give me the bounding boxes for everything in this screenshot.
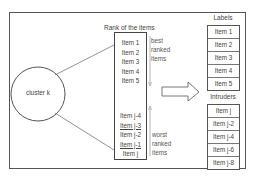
intruders-cell: Item j-4 — [208, 131, 239, 144]
note-line: ranked — [151, 45, 170, 54]
rank-title: Rank of the items — [104, 24, 155, 31]
rank-item: Item j-3 — [115, 121, 146, 130]
rank-item: Item 3 — [115, 57, 146, 66]
connector-line-top — [55, 45, 114, 75]
intruders-cell: Item j — [208, 105, 239, 118]
rank-item: Item j — [115, 149, 146, 158]
labels-table: Item 1 Item 2 Item 3 Item 4 Item 5 — [207, 25, 240, 91]
best-ranked-note: best ranked items — [151, 36, 170, 63]
worst-ranked-note: worst ranked items — [152, 130, 171, 157]
connector-line-bottom — [55, 113, 114, 150]
labels-cell: Item 5 — [208, 78, 239, 90]
note-line: worst — [152, 130, 171, 139]
note-line: items — [152, 148, 171, 157]
labels-title: Labels — [206, 14, 240, 21]
note-line: best — [151, 36, 170, 45]
rank-item: Item j-4 — [115, 111, 146, 120]
labels-cell: Item 4 — [208, 65, 239, 78]
rank-list: Item 1 Item 2 Item 3 Item 4 Item 5 Item … — [114, 32, 147, 160]
intruders-cell: Item j-6 — [208, 144, 239, 157]
intruders-cell: Item j-8 — [208, 157, 239, 169]
note-line: ranked — [152, 139, 171, 148]
rank-item: Item 4 — [115, 67, 146, 76]
rank-item: Item j-1 — [115, 140, 146, 149]
rank-item: Item 2 — [115, 48, 146, 57]
labels-cell: Item 3 — [208, 52, 239, 65]
intruders-cell: Item j-2 — [208, 118, 239, 131]
rank-item: Item j-2 — [115, 130, 146, 139]
cluster-label: cluster k — [11, 89, 65, 96]
rank-item: Item 5 — [115, 76, 146, 85]
right-block-arrow-icon — [162, 82, 199, 101]
rank-item: Item 1 — [115, 38, 146, 47]
labels-cell: Item 1 — [208, 26, 239, 39]
intruders-title: Intruders — [206, 93, 240, 100]
note-line: items — [151, 54, 170, 63]
intruders-table: Item j Item j-2 Item j-4 Item j-6 Item j… — [207, 104, 240, 170]
labels-cell: Item 2 — [208, 39, 239, 52]
